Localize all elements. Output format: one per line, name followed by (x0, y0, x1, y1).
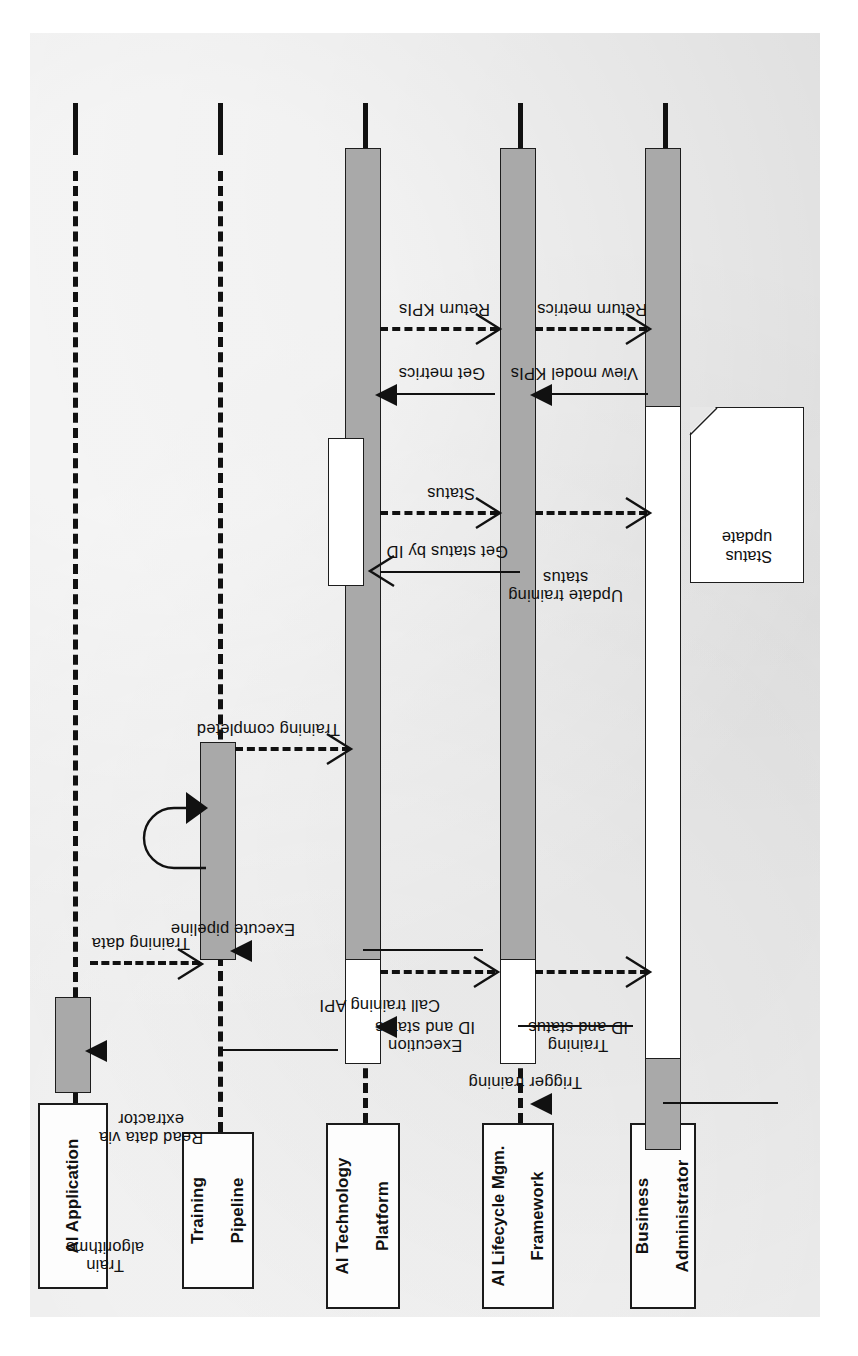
message-label-line1: Execution (388, 1037, 462, 1055)
message-label-line1: Training (548, 1037, 609, 1055)
message-arrowhead-read-data-via-extractor (85, 1040, 107, 1062)
participant-label-line2: Pipeline (228, 1171, 248, 1250)
message-label-view-model-kpis: View model KPIs (511, 364, 638, 383)
message-label-line2: ID and status (375, 1019, 475, 1037)
sequence-diagram-canvas: Business Administrator AI Lifecycle Mgm.… (30, 33, 820, 1317)
message-label-training-id-and-status: Training ID and status (513, 1018, 643, 1055)
message-label-train-algorithms: Train algorithms (50, 1238, 160, 1275)
participant-label-line2: Platform (373, 1151, 393, 1280)
participant-label-line1: Business (633, 1154, 653, 1279)
message-label-line2: extractor (118, 1111, 184, 1129)
message-label-return-kpis: Return KPIs (399, 300, 490, 319)
message-arrowhead-get-metrics (375, 384, 397, 406)
note-status-update: Status update (690, 407, 804, 583)
lifeline-end-training-pipeline (218, 103, 223, 155)
message-label-call-training-api: Call training API (319, 996, 440, 1015)
message-label-execution-id-and-status: Execution ID and status (360, 1018, 490, 1055)
message-line-trigger-training (663, 1102, 778, 1104)
note-label-line1: Status (725, 548, 772, 566)
message-line-view-model-kpis (550, 393, 648, 395)
participant-business-administrator[interactable]: Business Administrator (630, 1123, 696, 1309)
message-arrowhead-trigger-training (530, 1093, 552, 1115)
note-body: Status update (691, 408, 803, 582)
message-line-execute-pipeline (363, 949, 483, 951)
page: Business Administrator AI Lifecycle Mgm.… (0, 0, 858, 1356)
message-label-return-metrics: Return metrics (537, 300, 647, 319)
message-label-update-training-status: Update training status (488, 568, 643, 605)
participant-label-line2: Administrator (673, 1154, 693, 1279)
message-label-line1: Train (86, 1257, 124, 1275)
message-label-get-metrics: Get metrics (398, 364, 485, 383)
message-label-line1: Update training (508, 587, 623, 605)
lifeline-training-pipeline (218, 171, 223, 1132)
message-label-training-data: Training data (92, 934, 190, 953)
diagram-viewport: Business Administrator AI Lifecycle Mgm.… (30, 33, 820, 1317)
message-selfloop-train-algorithms (138, 762, 208, 874)
participant-label-line1: AI Lifecycle Mgm. (489, 1139, 508, 1292)
activation-ai-technology-platform-nested (328, 438, 364, 586)
participant-ai-lifecycle-mgm-framework[interactable]: AI Lifecycle Mgm. Framework (482, 1123, 554, 1309)
message-line-read-data-via-extractor (218, 1049, 338, 1051)
participant-label-line1: AI Technology (333, 1151, 353, 1280)
message-line-get-metrics (395, 393, 495, 395)
message-arrowhead-view-model-kpis (530, 384, 552, 406)
message-label-status: Status (427, 484, 475, 503)
message-label-read-data-via-extractor: Read data via extractor (76, 1110, 226, 1147)
message-arrowhead-execute-pipeline (230, 940, 252, 962)
message-label-get-status-by-id: Get status by ID (387, 542, 509, 561)
note-label-line2: update (722, 529, 772, 547)
participant-label-line1: Training (188, 1171, 208, 1250)
activation-business-administrator-end (645, 148, 681, 407)
message-label-line2: ID and status (528, 1019, 628, 1037)
message-label-line2: algorithms (66, 1239, 144, 1257)
message-label-line1: Read data via (99, 1129, 203, 1147)
lifeline-ai-application (73, 171, 78, 1103)
message-label-training-completed: Training completed (197, 720, 340, 739)
message-label-trigger-training: Trigger training (468, 1073, 582, 1092)
participant-label-line2: Framework (528, 1139, 547, 1292)
participant-training-pipeline[interactable]: Training Pipeline (182, 1132, 254, 1289)
message-label-line2: status (543, 569, 588, 587)
participant-ai-technology-platform[interactable]: AI Technology Platform (326, 1123, 400, 1309)
lifeline-end-ai-application (73, 103, 78, 155)
